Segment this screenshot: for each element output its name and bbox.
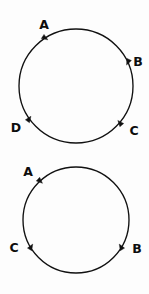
point-label-a: A (39, 17, 49, 32)
bottom-circle-point-a: A (23, 164, 42, 184)
top-circle-point-d: D (11, 116, 31, 134)
point-label-b: B (133, 54, 143, 69)
top-circle-point-c: C (118, 120, 139, 137)
point-label-c: C (129, 123, 138, 138)
bottom-circle-point-b: B (119, 241, 142, 256)
top-circle-group: A B C D (11, 17, 143, 144)
circles-diagram: A B C D A B (0, 0, 149, 294)
point-label-a: A (23, 164, 33, 179)
top-circle-outline (19, 29, 133, 143)
bottom-circle-group: A B C (9, 164, 141, 274)
bottom-circle-point-c: C (9, 240, 32, 255)
point-label-b: B (132, 241, 142, 256)
bottom-circle-outline (23, 167, 129, 273)
point-label-d: D (11, 120, 21, 135)
arrowhead-icon (27, 244, 32, 251)
arrowhead-icon (119, 244, 124, 251)
diagram-canvas: A B C D A B (0, 0, 149, 294)
point-label-c: C (9, 240, 18, 255)
